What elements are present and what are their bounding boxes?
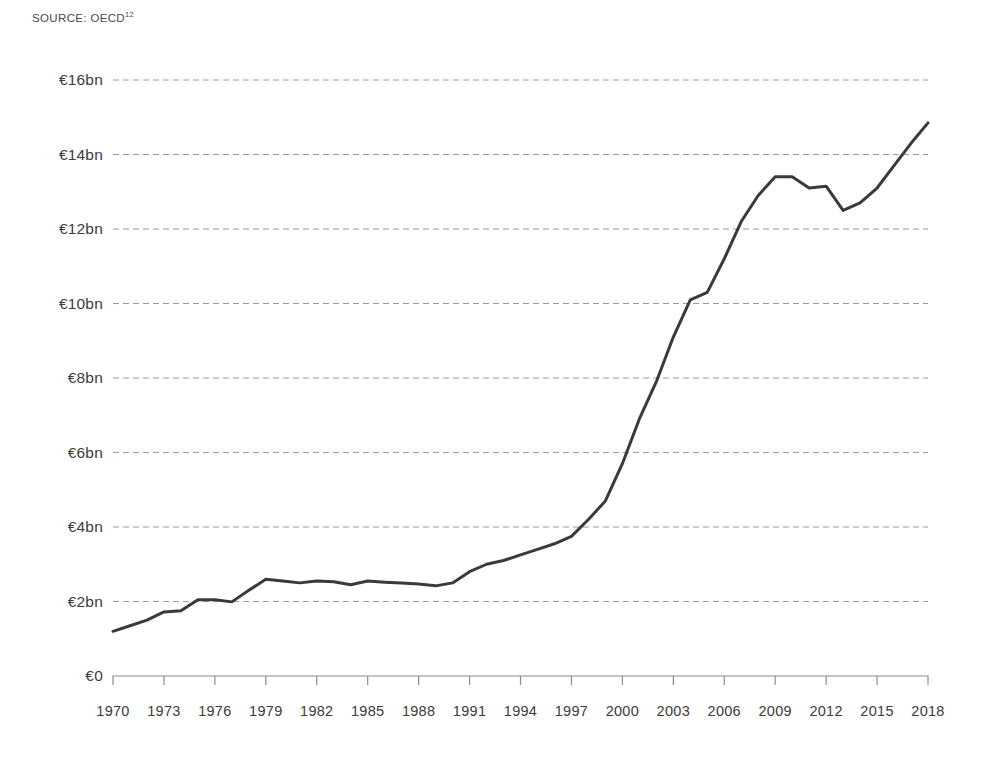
chart-canvas [0, 0, 981, 760]
y-axis-tick-label: €16bn [59, 71, 103, 89]
x-axis-tick-label: 1970 [96, 703, 129, 719]
x-axis-tick-label: 1985 [351, 703, 384, 719]
y-axis-tick-label: €14bn [59, 146, 103, 164]
gridlines [113, 80, 928, 602]
x-axis-tick-label: 1997 [555, 703, 588, 719]
x-axis-tick-label: 2018 [911, 703, 944, 719]
data-series-line [113, 123, 928, 631]
x-axis-tick-label: 2015 [860, 703, 893, 719]
x-axis [113, 676, 928, 685]
x-axis-tick-label: 2012 [809, 703, 842, 719]
y-axis-tick-label: €6bn [68, 444, 103, 462]
x-axis-tick-label: 1988 [402, 703, 435, 719]
y-axis-tick-label: €8bn [68, 369, 103, 387]
y-axis-tick-label: €10bn [59, 295, 103, 313]
y-axis-tick-label: €12bn [59, 220, 103, 238]
y-axis-tick-label: €2bn [68, 593, 103, 611]
x-axis-tick-label: 2009 [758, 703, 791, 719]
x-axis-tick-label: 1982 [300, 703, 333, 719]
x-axis-tick-label: 2000 [606, 703, 639, 719]
x-axis-tick-label: 1994 [504, 703, 537, 719]
line-chart: €16bn€14bn€12bn€10bn€8bn€6bn€4bn€2bn€0 1… [0, 0, 981, 760]
y-axis-tick-label: €0 [85, 667, 103, 685]
x-axis-tick-label: 1979 [249, 703, 282, 719]
x-axis-tick-label: 1973 [147, 703, 180, 719]
y-axis-tick-label: €4bn [68, 518, 103, 536]
x-axis-ticks [164, 676, 877, 685]
x-axis-tick-label: 1991 [453, 703, 486, 719]
x-axis-tick-label: 1976 [198, 703, 231, 719]
x-axis-tick-label: 2003 [657, 703, 690, 719]
x-axis-tick-label: 2006 [708, 703, 741, 719]
